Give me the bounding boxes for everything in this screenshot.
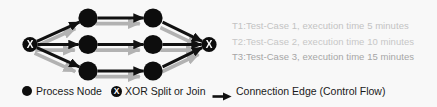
figure-canvas: X X T1:Test-Case 1, execution time 5 min… xyxy=(0,0,437,107)
filled-circle-icon xyxy=(22,86,32,96)
annotation-t2: T2:Test-Case 2, execution time 10 minute… xyxy=(232,34,437,50)
legend: Process Node X XOR Split or Join Connect… xyxy=(0,84,437,102)
process-node-n2[interactable] xyxy=(78,35,97,54)
process-node-n6[interactable] xyxy=(143,61,162,80)
xor-join-glyph: X xyxy=(206,39,213,50)
legend-label-xor-gateway: XOR Split or Join xyxy=(125,86,206,97)
edge-xor-split-to-n1 xyxy=(37,22,80,41)
legend-item-process-node: Process Node xyxy=(22,84,102,98)
xor-circle-icon-glyph: X xyxy=(111,86,122,97)
xor-circle-icon: X xyxy=(111,86,122,97)
legend-item-xor-gateway: X XOR Split or Join xyxy=(111,84,206,98)
process-node-n3[interactable] xyxy=(78,61,97,80)
process-node-n5[interactable] xyxy=(143,35,162,54)
legend-label-connection-edge: Connection Edge (Control Flow) xyxy=(236,86,385,97)
process-node-n1[interactable] xyxy=(78,8,97,27)
gateway-join[interactable]: X xyxy=(201,37,216,52)
annotation-t3: T3:Test-Case 3, execution time 15 minute… xyxy=(232,49,437,65)
annotation-t1: T1:Test-Case 1, execution time 5 minutes xyxy=(232,18,437,34)
process-node-n4[interactable] xyxy=(143,8,162,27)
legend-label-process-node: Process Node xyxy=(36,86,102,97)
legend-item-connection-edge: Connection Edge (Control Flow) xyxy=(212,84,385,98)
test-case-annotations: T1:Test-Case 1, execution time 5 minutes… xyxy=(232,18,437,65)
gateway-split[interactable]: X xyxy=(22,37,37,52)
xor-split-glyph: X xyxy=(27,39,34,50)
arrow-right-icon xyxy=(212,87,232,96)
